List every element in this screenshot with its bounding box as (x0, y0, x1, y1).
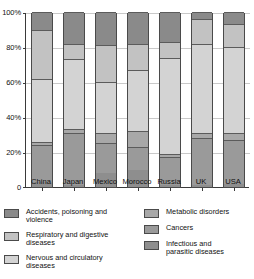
legend-label: Respiratory and digestive diseases (26, 231, 132, 248)
plot-area (25, 13, 249, 188)
bar-segment[interactable] (32, 12, 52, 30)
legend-label: Infectious and parasitic diseases (166, 240, 224, 257)
legend-item[interactable]: Nervous and circulatory diseases (4, 254, 132, 271)
x-axis-tick-label: UK (185, 178, 217, 186)
bar-stack[interactable] (159, 13, 181, 188)
bar-segment[interactable] (160, 12, 180, 42)
bar-segment[interactable] (64, 129, 84, 133)
x-axis-tick-mark (170, 188, 171, 191)
x-axis-tick-label: Russia (153, 178, 185, 186)
legend-swatch (144, 209, 159, 218)
x-axis-tick-label: USA (217, 178, 249, 186)
x-axis-tick-mark (42, 188, 43, 191)
bar-column[interactable] (191, 13, 213, 188)
legend-item[interactable]: Infectious and parasitic diseases (144, 240, 254, 257)
bar-segment[interactable] (96, 143, 116, 173)
bar-segment[interactable] (224, 12, 244, 24)
x-axis-tick-mark (74, 188, 75, 191)
bar-stack[interactable] (31, 13, 53, 188)
legend: Accidents, poisoning and violenceRespira… (4, 208, 252, 276)
bar-stack[interactable] (127, 13, 149, 188)
bar-segment[interactable] (160, 154, 180, 158)
legend-label: Metabolic disorders (166, 208, 229, 216)
bar-column[interactable] (223, 13, 245, 188)
bar-stack[interactable] (63, 13, 85, 188)
bar-segment[interactable] (96, 133, 116, 144)
y-axis-tick-label: 40% (6, 114, 21, 122)
y-axis-tick-label: 20% (6, 149, 21, 157)
legend-column-left: Accidents, poisoning and violenceRespira… (4, 208, 132, 276)
chart-root: 020%40%60%80%100% ChinaJapanMexicoMorocc… (0, 0, 254, 279)
bar-segment[interactable] (96, 12, 116, 45)
bar-segment[interactable] (32, 30, 52, 79)
stacked-bar-chart: 020%40%60%80%100% ChinaJapanMexicoMorocc… (0, 0, 254, 202)
x-axis-tick-label: Mexico (89, 178, 121, 186)
x-axis-tick-label: Japan (57, 178, 89, 186)
legend-label: Cancers (166, 224, 193, 232)
y-axis-tick-label: 100% (2, 9, 21, 17)
bar-segment[interactable] (96, 45, 116, 82)
bar-segment[interactable] (64, 44, 84, 60)
y-axis-tick-label: 60% (6, 79, 21, 87)
y-axis-tick-label: 0 (17, 184, 21, 192)
legend-swatch (4, 209, 19, 218)
bar-column[interactable] (31, 13, 53, 188)
x-axis-tick-mark (106, 188, 107, 191)
x-axis-tick-mark (202, 188, 203, 191)
bar-stack[interactable] (223, 13, 245, 188)
legend-label: Nervous and circulatory diseases (26, 254, 132, 271)
bar-segment[interactable] (128, 44, 148, 70)
bar-segment[interactable] (64, 59, 84, 129)
bar-segment[interactable] (160, 58, 180, 154)
bar-segment[interactable] (224, 47, 244, 133)
bar-segment[interactable] (64, 12, 84, 44)
legend-swatch (4, 232, 19, 241)
bar-segment[interactable] (192, 133, 212, 138)
bar-segment[interactable] (128, 131, 148, 147)
legend-label: Accidents, poisoning and violence (26, 208, 132, 225)
bar-segment[interactable] (192, 12, 212, 19)
bar-segment[interactable] (128, 147, 148, 170)
bar-column[interactable] (95, 13, 117, 188)
bar-column[interactable] (127, 13, 149, 188)
y-axis-tick-label: 80% (6, 44, 21, 52)
bar-segment[interactable] (32, 142, 52, 146)
legend-item[interactable]: Accidents, poisoning and violence (4, 208, 132, 225)
bar-segment[interactable] (128, 12, 148, 44)
bar-stack[interactable] (95, 13, 117, 188)
bar-segment[interactable] (32, 79, 52, 142)
legend-column-right: Metabolic disordersCancersInfectious and… (144, 208, 254, 263)
y-axis: 020%40%60%80%100% (0, 0, 24, 202)
bar-segment[interactable] (128, 70, 148, 131)
bar-group (26, 13, 250, 188)
x-axis-tick-label: China (25, 178, 57, 186)
legend-swatch (144, 241, 159, 250)
bar-segment[interactable] (160, 42, 180, 58)
bar-stack[interactable] (191, 13, 213, 188)
x-axis-tick-mark (138, 188, 139, 191)
legend-swatch (4, 255, 19, 264)
bar-column[interactable] (63, 13, 85, 188)
bar-segment[interactable] (192, 19, 212, 44)
bar-column[interactable] (159, 13, 181, 188)
legend-item[interactable]: Respiratory and digestive diseases (4, 231, 132, 248)
legend-item[interactable]: Cancers (144, 224, 254, 234)
legend-item[interactable]: Metabolic disorders (144, 208, 254, 218)
x-axis-tick-mark (234, 188, 235, 191)
x-axis-tick-label: Morocco (121, 178, 153, 186)
bar-segment[interactable] (96, 82, 116, 133)
bar-segment[interactable] (192, 44, 212, 133)
legend-swatch (144, 225, 159, 234)
bar-segment[interactable] (224, 133, 244, 140)
bar-segment[interactable] (224, 24, 244, 47)
